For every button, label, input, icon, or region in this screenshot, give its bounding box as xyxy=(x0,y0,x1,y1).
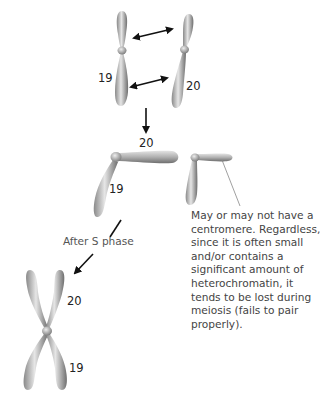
small-chromosome xyxy=(186,154,233,206)
transition-arrow xyxy=(75,254,93,273)
label-fused-arm-19: 19 xyxy=(109,184,124,196)
transition-label: After S phase xyxy=(63,235,134,247)
label-chromosome-19-stage1: 19 xyxy=(98,73,113,85)
label-fused-arm-20: 20 xyxy=(139,138,154,150)
pairing-arrow-bottom xyxy=(131,78,167,87)
label-replicated-19: 19 xyxy=(69,363,84,375)
translocation-chromosome xyxy=(94,151,179,217)
pairing-arrow-top xyxy=(134,29,172,38)
label-replicated-20: 20 xyxy=(67,296,82,308)
small-chromosome-note: May or may not have a centromere. Regard… xyxy=(191,209,325,331)
note-pointer-line xyxy=(222,160,240,206)
replicated-chromosome xyxy=(24,270,67,390)
translocation-diagram: 19 20 20 19 May or may not have a centro… xyxy=(0,0,325,404)
chromosome-20-stage1 xyxy=(172,14,194,108)
label-chromosome-20-stage1: 20 xyxy=(186,81,201,93)
chromosome-19-stage1 xyxy=(115,11,128,106)
